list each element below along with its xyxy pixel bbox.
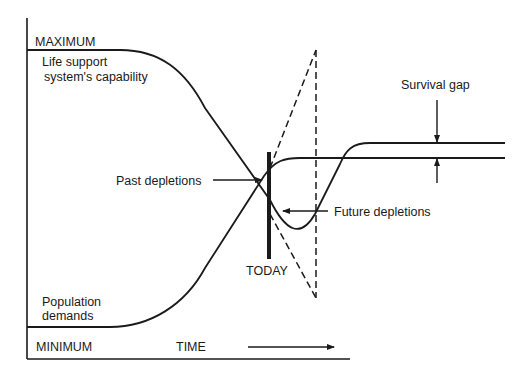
capability-label-2: system's capability <box>44 70 149 84</box>
population-label-1: Population <box>42 295 101 309</box>
time-label: TIME <box>176 340 206 354</box>
maximum-label: MAXIMUM <box>35 35 95 49</box>
survival-gap-label: Survival gap <box>401 78 470 92</box>
population-label-2: demands <box>42 309 93 323</box>
projection-lines <box>270 50 316 298</box>
minimum-label: MINIMUM <box>36 340 92 354</box>
future-depletions-label: Future depletions <box>334 205 431 219</box>
diagram-canvas: MAXIMUM Life support system's capability… <box>0 0 531 380</box>
past-depletions-label: Past depletions <box>116 174 201 188</box>
capability-label-1: Life support <box>42 55 108 69</box>
today-label: TODAY <box>246 264 289 278</box>
